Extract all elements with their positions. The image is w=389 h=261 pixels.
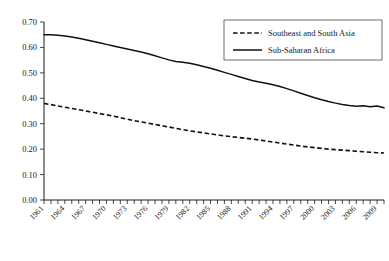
line-chart: 0.700.600.500.400.300.200.100.00 1961196… <box>0 0 389 261</box>
x-tick-label: 1985 <box>194 204 212 222</box>
x-tick-label: 1964 <box>49 204 67 222</box>
y-tick-label: 0.30 <box>22 119 37 129</box>
y-tick-label: 0.20 <box>22 144 37 154</box>
x-tick-label: 2006 <box>340 204 358 222</box>
y-tick-label: 0.00 <box>22 195 37 205</box>
x-tick-label: 1997 <box>278 204 296 222</box>
x-axis: 1961196419671970197319761979198219851988… <box>28 200 384 222</box>
chart-legend: Southeast and South AsiaSub-Saharan Afri… <box>224 20 382 60</box>
x-tick-label: 1991 <box>236 204 254 222</box>
y-tick-label: 0.40 <box>22 93 37 103</box>
legend-label: Sub-Saharan Africa <box>268 45 335 55</box>
x-tick-label: 1976 <box>132 204 150 222</box>
x-tick-label: 1979 <box>153 204 171 222</box>
x-tick-label: 1967 <box>69 204 87 222</box>
y-tick-label: 0.60 <box>22 42 37 52</box>
x-tick-label: 1994 <box>257 204 275 222</box>
series-line-southeast-and-south-asia <box>44 103 384 153</box>
legend-label: Southeast and South Asia <box>268 28 355 38</box>
x-tick-label: 1982 <box>173 204 191 222</box>
y-axis: 0.700.600.500.400.300.200.100.00 <box>22 17 44 205</box>
x-tick-label: 1970 <box>90 204 108 222</box>
y-tick-label: 0.50 <box>22 68 37 78</box>
x-tick-label: 2009 <box>361 204 379 222</box>
y-tick-label: 0.70 <box>22 17 37 27</box>
x-tick-label: 1973 <box>111 204 129 222</box>
x-tick-label: 1988 <box>215 204 233 222</box>
y-tick-label: 0.10 <box>22 170 37 180</box>
x-tick-label: 1961 <box>28 204 46 222</box>
chart-canvas: 0.700.600.500.400.300.200.100.00 1961196… <box>0 0 389 261</box>
x-tick-label: 2000 <box>298 204 316 222</box>
x-tick-label: 2003 <box>319 204 337 222</box>
